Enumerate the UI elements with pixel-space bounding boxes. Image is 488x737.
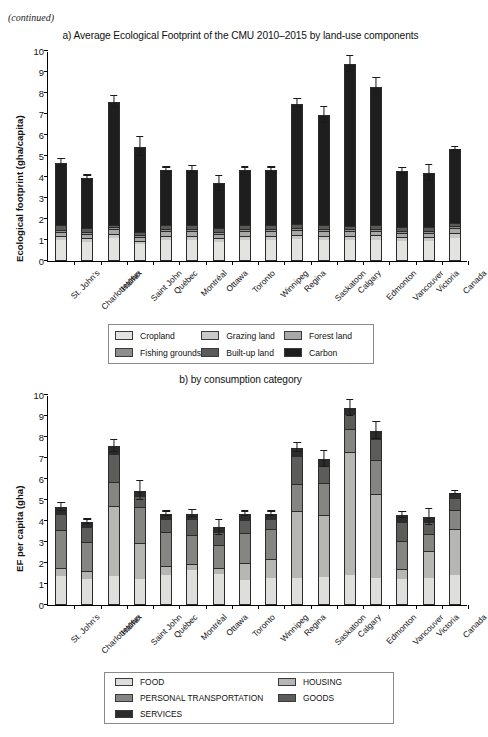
chart-a-error-cap: [84, 174, 91, 175]
chart-a-error-cap: [110, 95, 117, 96]
chart-a-error-cap: [267, 166, 274, 167]
chart-b-y-tickmark: [44, 478, 48, 479]
chart-a-error-bar: [218, 176, 219, 191]
chart-a-y-tickmark: [44, 113, 48, 114]
chart-b-segment: [213, 545, 225, 569]
chart-a-y-tickmark: [44, 176, 48, 177]
chart-a-error-cap: [241, 171, 248, 172]
chart-b-error-cap: [189, 516, 196, 517]
chart-a-error-cap: [215, 175, 222, 176]
chart-a-error-bar: [349, 56, 350, 72]
chart-b-x-tickmark: [153, 605, 154, 609]
chart-b-segment: [291, 484, 303, 511]
chart-b-y-tickmark: [44, 520, 48, 521]
legend-a-swatch-icon: [201, 331, 219, 340]
chart-b-segment: [55, 530, 67, 567]
chart-b-segment: [239, 533, 251, 562]
chart-a-y-tickmark: [44, 71, 48, 72]
chart-a-y-tickmark: [44, 155, 48, 156]
chart-b-error-cap: [267, 515, 274, 516]
chart-a-segment: [239, 240, 251, 261]
chart-a-error-cap: [372, 94, 379, 95]
chart-b-segment: [213, 574, 225, 605]
chart-b-error-cap: [84, 523, 91, 524]
chart-a-segment: [108, 238, 120, 261]
chart-b-bar: [265, 514, 277, 605]
chart-b-segment: [55, 568, 67, 576]
chart-a-error-cap: [136, 155, 143, 156]
legend-b-item: GOODS: [278, 690, 383, 706]
chart-a-segment: [370, 240, 382, 261]
chart-a-bar: [81, 178, 93, 261]
chart-a-bar: [108, 102, 120, 261]
legend-b-label: HOUSING: [303, 677, 342, 687]
legend-a-swatch-icon: [284, 348, 302, 357]
chart-b-segment: [396, 522, 408, 541]
chart-a-y-tickmark: [44, 239, 48, 240]
chart-a-error-bar: [323, 107, 324, 124]
chart-a-segment: [449, 238, 461, 261]
chart-a-error-bar: [428, 165, 429, 181]
chart-a-y-tick-7: 7: [39, 109, 48, 118]
legend-b-swatch-icon: [278, 694, 296, 703]
chart-b-error-bar: [428, 509, 429, 525]
chart-a-x-tickmark: [101, 261, 102, 265]
chart-b-y-tickmark: [44, 457, 48, 458]
continued-note: (continued): [8, 12, 54, 23]
chart-a-y-tick-1: 1: [39, 235, 48, 244]
chart-a-y-tickmark: [44, 218, 48, 219]
chart-a-x-tickmark: [127, 261, 128, 265]
chart-a-segment: [423, 173, 435, 227]
chart-b-y-tick-7: 7: [39, 453, 48, 462]
chart-b-bar: [396, 515, 408, 605]
chart-a-y-tickmark: [44, 134, 48, 135]
chart-a-x-tickmark: [153, 261, 154, 265]
chart-b-error-bar: [323, 451, 324, 468]
chart-a-x-tickmark: [468, 261, 469, 265]
chart-b: b) by consumption category EF per capita…: [0, 374, 481, 669]
chart-a-x-tickmark: [258, 261, 259, 265]
legend-a-item: Carbon: [284, 344, 367, 361]
chart-b-bar: [81, 522, 93, 605]
chart-a-error-cap: [110, 107, 117, 108]
chart-a-x-label: St. John's: [69, 268, 102, 301]
chart-a-error-cap: [451, 149, 458, 150]
chart-b-title: b) by consumption category: [0, 374, 481, 385]
chart-b-segment: [108, 576, 120, 605]
chart-b-bar: [134, 491, 146, 605]
legend-a-label: Forest land: [309, 331, 352, 341]
chart-a-x-tickmark: [363, 261, 364, 265]
chart-b-x-tickmark: [258, 605, 259, 609]
chart-a-segment: [318, 240, 330, 261]
chart-b-error-cap: [320, 450, 327, 451]
chart-b-segment: [423, 551, 435, 578]
chart-a-plot-area: 012345678910: [47, 52, 467, 262]
chart-b-segment: [265, 529, 277, 559]
chart-b-segment: [344, 452, 356, 575]
chart-b-error-cap: [451, 493, 458, 494]
chart-a-y-tickmark: [44, 92, 48, 93]
chart-b-error-cap: [320, 466, 327, 467]
chart-a-x-tickmark: [416, 261, 417, 265]
chart-b-segment: [344, 575, 356, 605]
legend-a-label: Grazing land: [226, 331, 275, 341]
chart-a-segment: [134, 244, 146, 261]
chart-a-y-tick-8: 8: [39, 88, 48, 97]
chart-a-bar: [396, 171, 408, 261]
chart-b-y-tickmark: [44, 394, 48, 395]
chart-a-error-cap: [399, 167, 406, 168]
chart-a-x-tickmark: [337, 261, 338, 265]
chart-a-segment: [55, 240, 67, 261]
chart-b-x-tickmark: [179, 605, 180, 609]
chart-a-x-label: Ottawa: [223, 268, 249, 294]
chart-a-segment: [265, 240, 277, 261]
chart-b-y-tickmark: [44, 583, 48, 584]
chart-a-x-tickmark: [206, 261, 207, 265]
chart-a-segment: [449, 149, 461, 223]
chart-b-bar: [423, 517, 435, 605]
chart-a-bar: [265, 170, 277, 261]
chart-a-error-cap: [241, 166, 248, 167]
chart-b-bar: [344, 408, 356, 605]
chart-a-x-tickmark: [284, 261, 285, 265]
legend-a-label: Carbon: [309, 348, 337, 358]
